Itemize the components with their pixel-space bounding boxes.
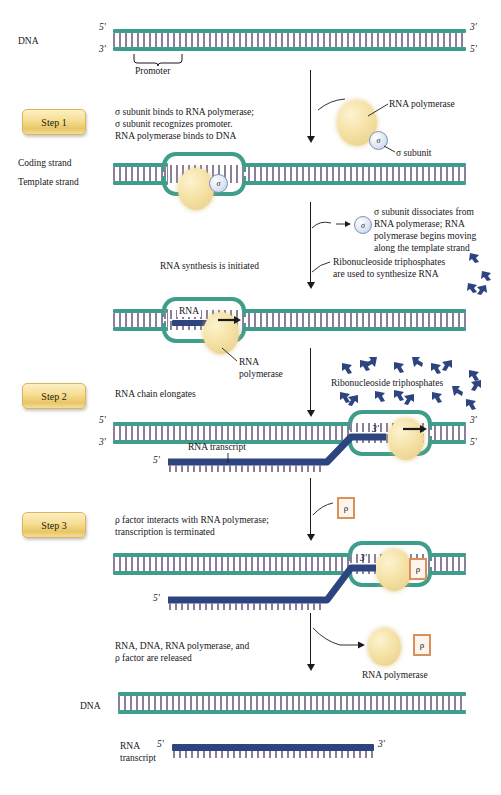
dna-right-step1 xyxy=(242,163,466,185)
transcription-diagram: DNA 5′ 3′ 3′ 5′ Promoter Step 1 σ subuni… xyxy=(0,0,501,795)
flow-arrow-1-head xyxy=(307,136,315,143)
dna-label-bottom: DNA xyxy=(80,700,101,712)
dna-base-pairs xyxy=(118,696,466,710)
prime-3-rna-step3: 3′ xyxy=(360,553,367,563)
rho-factor-bound: ρ xyxy=(409,558,427,580)
sigma-dissociates-text: σ subunit dissociates from RNA polymeras… xyxy=(374,206,476,254)
flow-arrow-5-line xyxy=(310,613,311,666)
dna-left-step3 xyxy=(113,553,352,575)
prime-3-bottom-left: 3′ xyxy=(99,44,106,54)
dna-base-pairs xyxy=(113,557,352,571)
sigma-subunit-released: σ xyxy=(354,216,372,234)
ntp-used-text: Ribonucleoside triphosphates are used to… xyxy=(333,256,445,280)
rho-factor-released: ρ xyxy=(413,634,431,656)
dna-right-step2 xyxy=(428,422,466,444)
dna-template-strand xyxy=(113,181,168,185)
dna-template-strand xyxy=(242,327,466,331)
sigma-release-arrow-head xyxy=(345,221,351,227)
rna-synthesis-initiated-text: RNA synthesis is initiated xyxy=(160,260,259,272)
rna-polymerase-step3 xyxy=(376,549,412,591)
prime-3-step2-right: 3′ xyxy=(470,415,477,425)
prime-5-top-left: 5′ xyxy=(99,22,106,32)
rna-transcript-label-final: RNA transcript xyxy=(120,740,156,764)
prime-3-rna-final: 3′ xyxy=(378,739,385,749)
rna-polymerase-label-2: RNA polymerase xyxy=(239,356,283,380)
rna-transcript-final xyxy=(172,744,374,751)
rna-transcript-teeth-step3 xyxy=(169,603,324,610)
dna-template-strand xyxy=(242,181,466,185)
step-2-badge[interactable]: Step 2 xyxy=(22,383,86,409)
prime-5-step2-left: 5′ xyxy=(99,415,106,425)
rna-transcript-teeth-final xyxy=(173,751,373,758)
prime-5-rna-final: 5′ xyxy=(157,739,164,749)
step-3-badge[interactable]: Step 3 xyxy=(22,512,86,538)
flow-arrow-2-line xyxy=(310,202,311,284)
dna-left-step1 xyxy=(113,163,168,185)
step-1-badge[interactable]: Step 1 xyxy=(22,109,86,135)
rna-transcript-label-step2: RNA transcript xyxy=(188,441,246,453)
flow-arrow-4-head xyxy=(307,534,315,541)
dna-base-pairs xyxy=(113,426,352,440)
prime-5-rna-step2: 5′ xyxy=(153,455,160,465)
rna-polymerase-step2 xyxy=(388,418,424,460)
sigma-subunit-bound: σ xyxy=(209,174,228,193)
dna-base-pairs xyxy=(428,426,466,440)
flow-arrow-3-head xyxy=(307,410,315,417)
dna-duplex-initial xyxy=(113,29,466,51)
dna-right-initiation xyxy=(242,309,466,331)
dna-right-step3 xyxy=(428,553,466,575)
dna-base-pairs xyxy=(113,33,466,47)
dna-base-pairs xyxy=(113,167,168,181)
prime-5-rna-step3: 5′ xyxy=(153,593,160,603)
prime-3-rna-step2: 3′ xyxy=(372,424,379,434)
flow-arrow-1-line xyxy=(310,70,311,138)
dna-duplex-final xyxy=(118,692,466,714)
sigma-subunit-label: σ subunit xyxy=(396,147,431,159)
dna-template-strand xyxy=(113,327,168,331)
step-3-description: ρ factor interacts with RNA polymerase; … xyxy=(115,514,269,538)
step-2-description: RNA chain elongates xyxy=(115,388,196,400)
dna-left-initiation xyxy=(113,309,168,331)
dna-base-pairs xyxy=(242,167,466,181)
rna-polymerase-label-1: RNA polymerase xyxy=(389,98,455,110)
dna-base-pairs xyxy=(242,313,466,327)
dna-template-strand xyxy=(113,571,352,575)
flow-arrow-4-line xyxy=(310,478,311,536)
prime-5-step2-right: 5′ xyxy=(470,437,477,447)
prime-3-step2-left: 3′ xyxy=(99,437,106,447)
ribonucleoside-triphosphates-label-1: Ribonucleoside triphosphates xyxy=(330,377,444,389)
rna-transcript-teeth-step2 xyxy=(169,465,324,472)
dna-template-strand xyxy=(118,710,466,714)
prime-5-bottom-right: 5′ xyxy=(470,44,477,54)
template-strand-label: Template strand xyxy=(18,176,79,188)
dna-template-strand xyxy=(113,47,466,51)
rna-label: RNA xyxy=(177,305,201,317)
released-description: RNA, DNA, RNA polymerase, and ρ factor a… xyxy=(115,640,249,664)
rna-polymerase-bound-step1 xyxy=(178,168,214,210)
flow-arrow-5-head xyxy=(307,664,315,671)
sigma-subunit-free: σ xyxy=(369,131,388,150)
flow-arrow-3-line xyxy=(310,348,311,412)
dna-template-strand xyxy=(428,571,466,575)
rna-polymerase-initiation xyxy=(203,312,239,354)
rna-polymerase-label-3: RNA polymerase xyxy=(362,669,428,681)
prime-3-top-right: 3′ xyxy=(470,22,477,32)
dna-base-pairs xyxy=(113,313,168,327)
promoter-label: Promoter xyxy=(135,65,170,77)
step-1-description: σ subunit binds to RNA polymerase; σ sub… xyxy=(115,106,254,142)
dna-label-top: DNA xyxy=(18,35,39,47)
rna-polymerase-released xyxy=(368,628,401,666)
dna-template-strand xyxy=(428,440,466,444)
coding-strand-label: Coding strand xyxy=(18,157,72,169)
flow-arrow-2-head xyxy=(307,282,315,289)
rho-factor-free: ρ xyxy=(337,497,355,519)
dna-base-pairs xyxy=(428,557,466,571)
